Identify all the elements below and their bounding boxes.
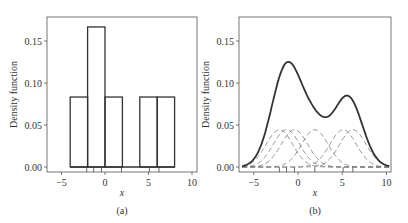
panel-a: 0.000.050.100.15−50510xDensity function(…	[8, 17, 197, 217]
panel-b: 0.000.050.100.15−50510xDensity function(…	[200, 17, 392, 217]
y-tick-label: 0.15	[25, 36, 43, 47]
y-tick-label: 0.15	[217, 36, 235, 47]
x-tick-label: −5	[248, 177, 259, 188]
y-axis-label: Density function	[8, 61, 19, 128]
panel-label: (b)	[309, 205, 321, 217]
histogram-bar	[70, 97, 87, 167]
histogram-bar	[140, 97, 157, 167]
x-tick-label: 0	[296, 177, 301, 188]
x-tick-label: 5	[340, 177, 345, 188]
y-axis-label: Density function	[200, 61, 211, 128]
x-tick-label: 0	[103, 177, 108, 188]
histogram-bar	[88, 27, 105, 167]
histogram-bar	[157, 97, 174, 167]
y-tick-label: 0.05	[217, 120, 235, 131]
y-tick-label: 0.10	[25, 78, 43, 89]
y-tick-label: 0.00	[217, 162, 235, 173]
plot-frame	[239, 17, 391, 172]
x-tick-label: 5	[146, 177, 151, 188]
figure: 0.000.050.100.15−50510xDensity function(…	[0, 0, 408, 223]
x-axis-label: x	[312, 187, 318, 198]
panel-label: (a)	[116, 205, 127, 217]
y-tick-label: 0.10	[217, 78, 235, 89]
x-tick-label: 10	[382, 177, 392, 188]
x-tick-label: 10	[187, 177, 197, 188]
y-tick-label: 0.00	[25, 162, 43, 173]
histogram-bar	[105, 97, 122, 167]
x-tick-label: −5	[56, 177, 67, 188]
density-curve	[242, 62, 389, 166]
x-axis-label: x	[119, 187, 125, 198]
y-tick-label: 0.05	[25, 120, 43, 131]
